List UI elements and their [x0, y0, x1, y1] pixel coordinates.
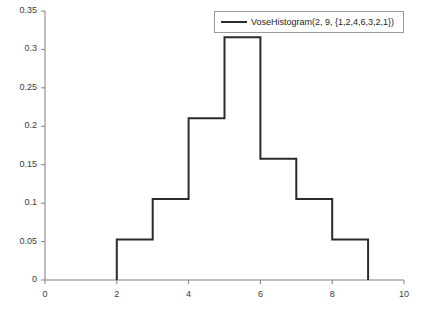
x-tick-label: 6: [240, 289, 280, 299]
histogram-chart: 00.050.10.150.20.250.30.35 0246810 VoseH…: [0, 0, 422, 310]
x-tick-label: 4: [169, 289, 209, 299]
x-tick-label: 2: [97, 289, 137, 299]
series-group: [117, 37, 368, 280]
axes-group: [41, 11, 404, 284]
y-tick-label: 0.3: [0, 43, 37, 53]
y-tick-label: 0: [0, 274, 37, 284]
legend-line-swatch: [221, 21, 247, 23]
x-tick-label: 0: [25, 289, 65, 299]
x-axis-ticks: [45, 280, 404, 284]
y-tick-label: 0.25: [0, 82, 37, 92]
y-tick-label: 0.05: [0, 236, 37, 246]
x-tick-label: 8: [312, 289, 352, 299]
legend-entry-label: VoseHistogram(2, 9, {1,2,4,6,3,2,1}): [251, 17, 394, 27]
y-tick-label: 0.15: [0, 159, 37, 169]
plot-area: [0, 0, 422, 310]
histogram-step-line: [117, 37, 368, 280]
x-tick-label: 10: [384, 289, 422, 299]
y-tick-label: 0.1: [0, 197, 37, 207]
legend: VoseHistogram(2, 9, {1,2,4,6,3,2,1}): [214, 11, 404, 33]
y-axis-ticks: [41, 11, 45, 280]
y-tick-label: 0.35: [0, 5, 37, 15]
y-tick-label: 0.2: [0, 120, 37, 130]
